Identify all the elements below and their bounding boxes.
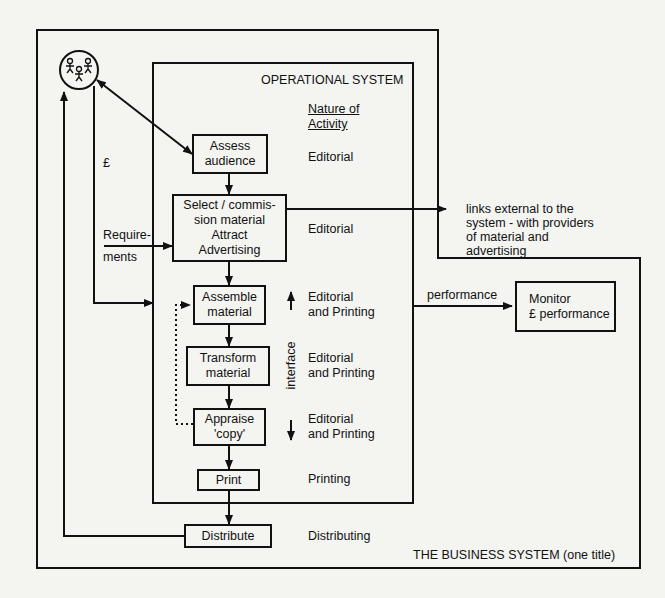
activity-header-line-2: Activity xyxy=(308,117,348,132)
monitor-label: Monitor xyxy=(529,292,571,307)
process-transform-material: Transform material xyxy=(186,346,270,386)
interface-label: interface xyxy=(284,338,299,394)
requirements-label-1: Require- xyxy=(103,228,151,243)
process-label: Advertising xyxy=(199,243,261,258)
performance-label: performance xyxy=(427,288,497,303)
audience-circle xyxy=(60,51,98,89)
activity-appraise-2: and Printing xyxy=(308,427,375,442)
activity-print: Printing xyxy=(308,472,350,487)
activity-select: Editorial xyxy=(308,222,353,237)
process-label: material xyxy=(206,366,250,381)
requirements-label-2: ments xyxy=(103,250,137,265)
activity-transform-2: and Printing xyxy=(308,366,375,381)
process-label: 'copy' xyxy=(214,427,245,442)
process-label: Appraise xyxy=(205,412,254,427)
process-assemble-material: Assemble material xyxy=(193,285,266,325)
activity-assess: Editorial xyxy=(308,150,353,165)
process-assess-audience: Assess audience xyxy=(192,134,268,174)
process-label: sion material xyxy=(194,213,265,228)
money-label: £ xyxy=(103,156,110,171)
process-label: Distribute xyxy=(202,529,255,544)
activity-assemble-1: Editorial xyxy=(308,290,353,305)
process-label: Transform xyxy=(200,351,257,366)
operational-system-label: OPERATIONAL SYSTEM xyxy=(261,73,403,88)
external-links-4: advertising xyxy=(466,244,526,259)
process-label: audience xyxy=(205,154,256,169)
people-group-icon xyxy=(66,59,92,82)
process-label: Select / commis- xyxy=(183,198,275,213)
external-links-3: of material and xyxy=(466,230,549,245)
process-print: Print xyxy=(197,469,260,491)
activity-assemble-2: and Printing xyxy=(308,305,375,320)
activity-transform-1: Editorial xyxy=(308,351,353,366)
process-label: Assemble xyxy=(202,290,257,305)
process-label: Print xyxy=(216,473,242,488)
process-label: Assess xyxy=(210,139,250,154)
activity-appraise-1: Editorial xyxy=(308,412,353,427)
external-links-2: system - with providers xyxy=(466,216,594,231)
process-label: material xyxy=(207,305,251,320)
external-links-1: links external to the xyxy=(466,202,574,217)
process-label: Attract xyxy=(211,228,247,243)
process-appraise-copy: Appraise 'copy' xyxy=(193,408,266,446)
business-system-label: THE BUSINESS SYSTEM (one title) xyxy=(413,548,615,563)
activity-distribute: Distributing xyxy=(308,529,371,544)
process-select-commission: Select / commis- sion material Attract A… xyxy=(172,194,287,262)
process-distribute: Distribute xyxy=(184,524,272,548)
monitor-label: £ performance xyxy=(529,307,610,322)
activity-header-line-1: Nature of xyxy=(308,102,359,117)
monitor-performance-box: Monitor £ performance xyxy=(515,281,616,332)
